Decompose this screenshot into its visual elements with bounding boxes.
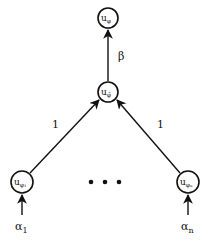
- edge-right-to-mid: [117, 100, 180, 173]
- node-top: uφ: [98, 8, 118, 28]
- node-mid: uφ̃: [98, 82, 118, 102]
- edge-weight-right: 1: [157, 118, 164, 131]
- input-label-alpha-1: α1: [15, 220, 28, 235]
- edge-weight-beta: β: [118, 50, 124, 63]
- diagram-canvas: β 1 1 uφ uφ̃ uφ₁ uφₙ α1 αn: [0, 0, 209, 247]
- node-left: uφ₁: [11, 171, 33, 193]
- ellipsis: [89, 180, 122, 185]
- edge-weight-left: 1: [52, 118, 59, 131]
- node-right: uφₙ: [177, 171, 199, 193]
- edge-left-to-mid: [30, 100, 99, 173]
- input-label-alpha-n: αn: [181, 220, 194, 235]
